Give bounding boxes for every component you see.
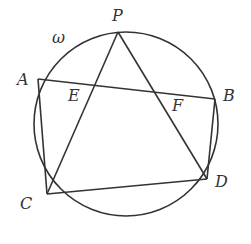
label-omega: ω [52,30,65,46]
label-b: B [223,88,235,104]
segment-bd [207,99,215,179]
label-f: F [172,98,183,114]
segment-cd [47,179,207,194]
segment-pc [47,32,118,194]
label-d: D [215,174,228,190]
geometry-diagram: ω P A B C D E F [0,0,251,244]
segment-pd [118,32,207,179]
segment-ac [38,79,47,194]
label-c: C [20,196,32,212]
segment-ab [38,79,215,99]
label-p: P [112,8,123,24]
circle-omega [34,32,218,216]
label-e: E [68,88,80,104]
diagram-figure [0,0,251,244]
label-a: A [17,72,29,88]
